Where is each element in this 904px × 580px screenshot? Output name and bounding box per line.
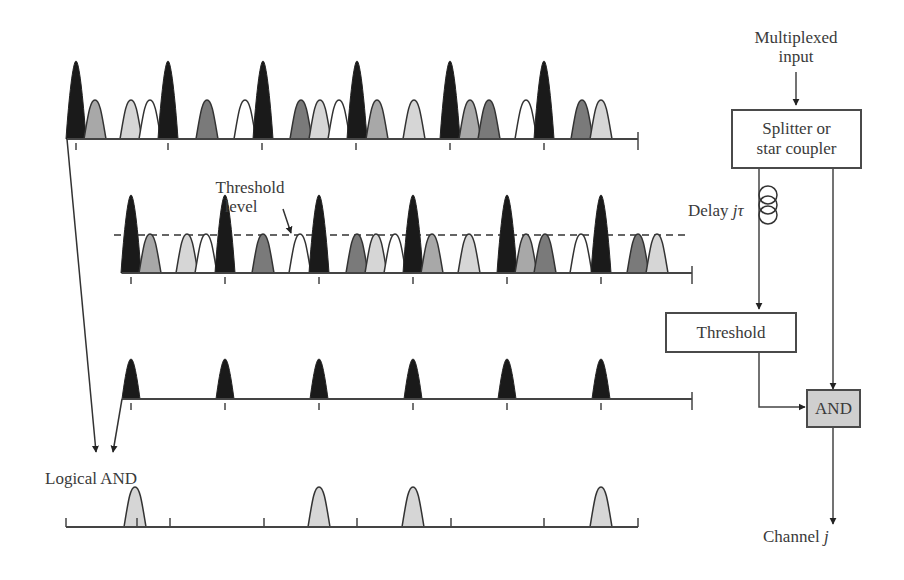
pulse-white [139,100,161,139]
pulse-light-small [402,487,424,527]
pulse-black [66,61,86,139]
threshold-level-label: Threshold level [205,178,295,216]
pulse-black-small [122,359,140,399]
pulse-medium [366,100,388,139]
pulse-medium [139,234,161,273]
pulse-light [176,234,198,273]
row3-to-and-arrow [113,399,122,452]
pulse-light [120,100,142,139]
splitter-line1: Splitter or [762,119,830,139]
pulse-light [458,234,480,273]
pulse-dark [290,100,312,139]
threshold-to-and-arrow [759,352,805,407]
splitter-line2: star coupler [757,139,837,159]
logical-and-arrows [67,139,122,452]
pulse-dark [627,234,649,273]
pulse-light-small [124,487,146,527]
pulse-dark [196,100,218,139]
logical-and-output [66,487,638,527]
pulse-black-small [498,359,516,399]
delay-coil-icon [759,186,777,224]
splitter-box: Splitter or star coupler [731,109,862,169]
pulse-white [195,234,217,273]
pulse-light [646,234,668,273]
pulse-white [570,234,592,273]
pulse-light [590,100,612,139]
pulse-white [289,234,311,273]
pulse-black [347,61,367,139]
pulse-black-small [592,359,610,399]
multiplexed-input-line2: input [741,47,851,66]
pulse-black [591,195,611,273]
pulse-black-small [404,359,422,399]
pulse-dark [478,100,500,139]
delay-label: Delay jτ [688,201,744,220]
channel-j-label: Channel j [763,527,829,546]
pulse-light [365,234,387,273]
delay-prefix: Delay [688,201,733,220]
channel-var: j [824,527,829,546]
pulse-black [440,61,460,139]
pulse-black [497,195,517,273]
pulse-black-small [216,359,234,399]
threshold-box-label: Threshold [697,323,766,343]
pulse-dark [571,100,593,139]
pulse-dark [346,234,368,273]
pulse-medium [459,100,481,139]
pulse-light-small [308,487,330,527]
pulse-light [403,100,425,139]
pulse-medium [84,100,106,139]
pulse-light [309,100,331,139]
pulse-rows [66,61,692,527]
pulse-black [121,195,141,273]
tdm-demultiplexing-diagram [0,0,904,580]
threshold-box: Threshold [665,312,797,353]
pulse-medium [515,234,537,273]
and-gate-box: AND [806,389,861,428]
pulse-white [515,100,537,139]
pulse-white [328,100,350,139]
pulse-dark [534,234,556,273]
pulse-white [384,234,406,273]
pulse-white [234,100,256,139]
logical-and-label: Logical AND [45,469,137,488]
pulse-black [534,61,554,139]
threshold-level-line1: Threshold [205,178,295,197]
pulse-light-small [590,487,612,527]
logical-and-text: Logical AND [45,469,137,488]
multiplexed-input-train [66,61,638,150]
pulse-medium [421,234,443,273]
pulse-dark [252,234,274,273]
pulse-black [158,61,178,139]
pulse-black [253,61,273,139]
delay-var: jτ [733,201,744,220]
pulse-black [403,195,423,273]
pulse-black-small [310,359,328,399]
multiplexed-input-label: Multiplexed input [741,28,851,66]
pulse-black [309,195,329,273]
multiplexed-input-line1: Multiplexed [741,28,851,47]
threshold-level-line2: level [187,197,295,216]
channel-prefix: Channel [763,527,824,546]
and-box-label: AND [815,399,852,419]
thresholded-train [122,359,692,410]
row1-to-and-arrow [67,139,96,452]
